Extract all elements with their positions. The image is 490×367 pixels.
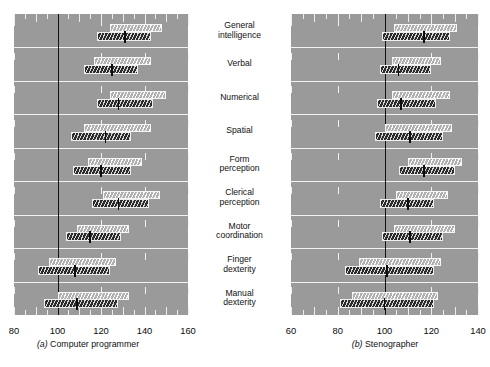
axis-tick-mark [303, 310, 304, 315]
band-gradation-tick [478, 86, 479, 93]
axis-tick-mark [123, 307, 124, 315]
band-gradation-tick [188, 287, 189, 294]
range-bar-dark [66, 232, 120, 241]
row-separator-line [14, 248, 188, 249]
caption-letter-b: (b) [352, 339, 363, 349]
axis-tick-mark [47, 310, 48, 315]
band-gradation-tick [338, 220, 339, 227]
axis-tick-mark [466, 310, 467, 315]
caption-text-a: Computer programmer [50, 339, 139, 349]
median-marker [124, 31, 126, 43]
axis-tick-mark [361, 14, 362, 22]
range-bar-dark [92, 199, 149, 208]
band-gradation-tick [478, 220, 479, 227]
row-separator-line [14, 282, 188, 283]
figure-root: GeneralintelligenceVerbalNumericalSpatia… [0, 0, 490, 367]
axis-tick-mark [134, 14, 135, 19]
axis-tick-mark [478, 307, 479, 315]
axis-tick-mark [420, 310, 421, 315]
axis-tick-mark [466, 14, 467, 19]
median-marker [89, 231, 91, 243]
axis-tick-mark [177, 310, 178, 315]
x-axis-tick-label: 140 [463, 325, 490, 336]
band-gradation-tick [188, 253, 189, 260]
band-gradation-tick [145, 153, 146, 160]
median-marker [398, 64, 400, 76]
row-separator-line [14, 215, 188, 216]
band-gradation-tick [291, 120, 292, 127]
range-bar-dark [382, 232, 443, 241]
axis-tick-mark [396, 14, 397, 19]
row-separator-line [14, 114, 188, 115]
axis-tick-mark [396, 310, 397, 315]
axis-tick-mark [25, 14, 26, 19]
category-label-column: GeneralintelligenceVerbalNumericalSpatia… [190, 14, 289, 315]
axis-tick-mark [36, 307, 37, 315]
axis-tick-mark [134, 310, 135, 315]
band-gradation-tick [338, 253, 339, 260]
band-gradation-tick [478, 287, 479, 294]
row-separator-line [14, 181, 188, 182]
band-gradation-tick [291, 19, 292, 26]
band-gradation-tick [338, 287, 339, 294]
axis-tick-mark [314, 307, 315, 315]
category-label: Manualdexterity [190, 289, 289, 308]
axis-tick-mark [145, 307, 146, 315]
axis-tick-mark [373, 14, 374, 19]
row-separator-line [14, 47, 188, 48]
axis-tick-mark [443, 310, 444, 315]
axis-tick-mark [68, 14, 69, 19]
category-label: Numerical [190, 93, 289, 103]
band-gradation-tick [291, 253, 292, 260]
band-gradation-tick [14, 86, 15, 93]
axis-tick-mark [155, 310, 156, 315]
category-label-line: Numerical [190, 93, 289, 103]
caption-text-b: Stenographer [365, 339, 418, 349]
x-axis-tick-label: 140 [130, 325, 160, 336]
category-label-line: Verbal [190, 59, 289, 69]
axis-tick-mark [14, 307, 15, 315]
band-gradation-tick [338, 86, 339, 93]
caption-letter-a: (a) [37, 339, 48, 349]
axis-tick-mark [90, 310, 91, 315]
band-gradation-tick [14, 19, 15, 26]
band-gradation-tick [291, 287, 292, 294]
category-label: Verbal [190, 59, 289, 69]
median-marker [400, 98, 402, 110]
band-gradation-tick [338, 187, 339, 194]
median-marker [74, 265, 76, 277]
band-gradation-tick [291, 53, 292, 60]
range-bar-dark [345, 266, 434, 275]
axis-tick-mark [166, 14, 167, 22]
band-gradation-tick [14, 287, 15, 294]
axis-tick-mark [155, 14, 156, 19]
band-gradation-tick [14, 253, 15, 260]
category-label: Formperception [190, 155, 289, 174]
category-label: Fingerdexterity [190, 255, 289, 274]
band-gradation-tick [101, 86, 102, 93]
category-label-line: intelligence [190, 31, 289, 41]
row-separator-line [14, 81, 188, 82]
axis-tick-mark [47, 14, 48, 19]
axis-tick-mark [326, 310, 327, 315]
category-label: Clericalperception [190, 188, 289, 207]
median-marker [423, 31, 425, 43]
range-bar-dark [71, 132, 132, 141]
band-gradation-tick [188, 86, 189, 93]
axis-tick-mark [338, 307, 339, 315]
band-gradation-tick [14, 187, 15, 194]
band-gradation-tick [188, 220, 189, 227]
axis-tick-mark [303, 14, 304, 19]
band-gradation-tick [291, 153, 292, 160]
band-gradation-tick [101, 187, 102, 194]
chart-panel-stenographer [291, 14, 478, 315]
axis-tick-mark [25, 310, 26, 315]
x-axis-tick-label: 80 [0, 325, 29, 336]
x-axis-tick-label: 120 [416, 325, 446, 336]
band-gradation-tick [101, 19, 102, 26]
band-gradation-tick [14, 120, 15, 127]
band-gradation-tick [188, 120, 189, 127]
band-gradation-tick [338, 19, 339, 26]
band-gradation-tick [478, 187, 479, 194]
x-axis-tick-label: 80 [323, 325, 353, 336]
